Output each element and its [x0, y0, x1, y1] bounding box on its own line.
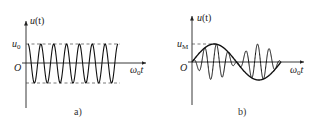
figure-canvas: u(t) u0 O ω0t a) u(t) uM O ω0t b)	[0, 0, 314, 126]
x-axis-label-b: ω0t	[290, 64, 304, 77]
amplitude-label-b: uM	[177, 38, 189, 51]
origin-label-a: O	[14, 62, 21, 73]
panel-b: u(t) uM O ω0t b)	[177, 12, 304, 118]
amplitude-label-a: u0	[12, 38, 21, 51]
y-axis-label-a: u(t)	[30, 15, 44, 27]
x-axis-label-a: ω0t	[130, 64, 144, 77]
caption-b: b)	[238, 106, 246, 118]
carrier-waveform-a	[28, 44, 118, 83]
origin-label-b: O	[180, 62, 187, 73]
caption-a: a)	[74, 106, 82, 118]
y-axis-label-b: u(t)	[197, 12, 211, 24]
panel-a: u(t) u0 O ω0t a)	[12, 15, 146, 118]
